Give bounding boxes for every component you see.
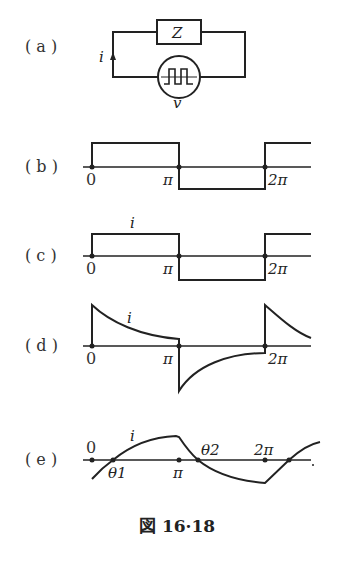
tick-0: 0: [86, 349, 96, 368]
current-label: i: [99, 48, 104, 66]
figure-canvas: ( a ) Z i v ( b ) 0 π 2π ( c ) i 0 π 2π …: [0, 0, 346, 562]
tick-2pi: 2π: [267, 260, 289, 278]
panel-c-current: ( c ) i 0 π 2π: [25, 214, 311, 280]
curve-label: i: [130, 427, 135, 445]
theta2-label: θ2: [201, 441, 220, 459]
panel-a-circuit: ( a ) Z i v: [25, 20, 245, 112]
panel-b-label: ( b ): [25, 157, 58, 176]
panel-e-label: ( e ): [25, 450, 57, 469]
panel-b-voltage: ( b ) 0 π 2π: [25, 143, 311, 189]
tick-pi: π: [162, 171, 174, 189]
panel-a-label: ( a ): [25, 37, 57, 56]
tick-pi: π: [162, 260, 174, 278]
tick-0: 0: [86, 170, 96, 189]
tick-2pi: 2π: [267, 350, 289, 368]
current-arrow-icon: [110, 52, 116, 60]
tick-pi: π: [172, 464, 184, 482]
curve-label: i: [130, 214, 135, 232]
left-wire: [113, 32, 158, 77]
tick-0: 0: [86, 438, 96, 457]
panel-c-label: ( c ): [25, 246, 57, 265]
right-wire: [200, 32, 245, 77]
tick-0: 0: [86, 259, 96, 278]
panel-d-label: ( d ): [25, 336, 58, 355]
panel-e-current: ( e ) i 0 θ1 π θ2 2π: [25, 427, 320, 483]
source-label: v: [173, 94, 182, 112]
tick-pi: π: [162, 350, 174, 368]
current-waveform: [92, 305, 311, 391]
figure-caption: 図 16·18: [139, 516, 215, 536]
impedance-label: Z: [171, 24, 183, 42]
tick-2pi: 2π: [253, 441, 275, 459]
curve-label: i: [127, 309, 132, 327]
theta1-label: θ1: [108, 464, 127, 482]
panel-d-current: ( d ) i 0 π 2π: [25, 305, 311, 391]
tick-2pi: 2π: [267, 171, 289, 189]
